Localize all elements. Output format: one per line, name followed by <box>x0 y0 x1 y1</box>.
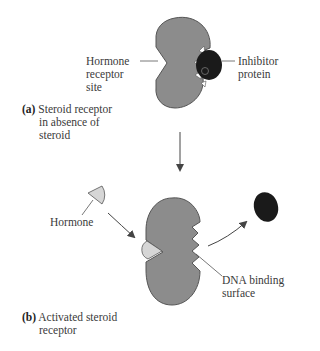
label-line: Hormone <box>86 55 129 68</box>
label-dna-binding-surface: DNA binding surface <box>222 274 284 300</box>
hormone-arrow <box>108 213 134 237</box>
label-line: surface <box>222 287 284 300</box>
label-hormone-receptor-site: Hormone receptor site <box>86 55 129 94</box>
receptor-active <box>142 198 200 305</box>
label-line: DNA binding <box>222 274 284 287</box>
caption-line: steroid <box>22 129 112 142</box>
release-arrow <box>208 222 246 246</box>
leader-hormone <box>82 200 93 215</box>
label-line: receptor <box>86 68 129 81</box>
caption-panel-a: (a) Steroid receptor in absence of stero… <box>22 103 112 142</box>
caption-line: in absence of <box>22 116 112 129</box>
label-hormone: Hormone <box>50 216 93 229</box>
inhibitor-released <box>251 189 282 224</box>
caption-line: Steroid receptor <box>38 103 112 115</box>
label-line: protein <box>238 68 278 81</box>
hormone-free <box>88 186 105 204</box>
caption-panel-b: (b) Activated steroid receptor <box>22 311 117 337</box>
panel-letter: (b) <box>22 311 36 323</box>
label-line: site <box>86 81 129 94</box>
label-line: Inhibitor <box>238 55 278 68</box>
caption-line: receptor <box>22 324 117 337</box>
caption-line: Activated steroid <box>38 311 117 323</box>
panel-letter: (a) <box>22 103 35 115</box>
label-inhibitor-protein: Inhibitor protein <box>238 55 278 81</box>
